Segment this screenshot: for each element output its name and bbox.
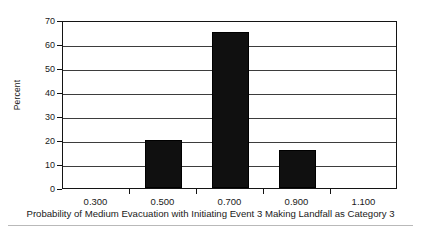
x-axis-title: Probability of Medium Evacuation with In… xyxy=(0,208,421,220)
x-tick-mark xyxy=(196,189,197,194)
bar xyxy=(279,150,316,188)
bar xyxy=(145,140,182,188)
x-tick-label: 0.500 xyxy=(133,196,193,207)
x-tick-mark xyxy=(330,189,331,194)
histogram-figure: Percent 010203040506070 0.3000.5000.7000… xyxy=(0,0,421,229)
x-tick-mark xyxy=(129,189,130,194)
y-tick-label: 70 xyxy=(9,17,55,26)
x-tick-label: 0.700 xyxy=(200,196,260,207)
bar xyxy=(212,32,249,188)
y-tick-label: 20 xyxy=(9,137,55,146)
bottom-divider xyxy=(8,225,413,226)
y-tick-label: 50 xyxy=(9,65,55,74)
y-tick-mark xyxy=(57,189,62,190)
y-tick-label: 10 xyxy=(9,161,55,170)
plot-area xyxy=(62,21,397,189)
x-tick-mark xyxy=(263,189,264,194)
y-tick-label: 30 xyxy=(9,113,55,122)
y-tick-label: 40 xyxy=(9,89,55,98)
x-tick-label: 0.300 xyxy=(66,196,126,207)
x-tick-label: 0.900 xyxy=(267,196,327,207)
x-tick-label: 1.100 xyxy=(334,196,394,207)
y-tick-label: 0 xyxy=(9,185,55,194)
y-tick-label: 60 xyxy=(9,41,55,50)
